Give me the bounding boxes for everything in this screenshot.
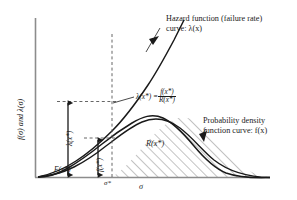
y-axis-label: f(σ) and λ(σ) [16,99,26,140]
hazard-value-fraction: f(x*)R(x*) [158,89,176,105]
cdf-measure-label: F(x*) [54,166,70,175]
x-tick-label-sigma-star: σ* [104,179,111,187]
hazard-function-label: Hazard function (failure rate) curve: λ(… [166,14,262,33]
lambda-measure-label: λ(x*) [66,131,75,146]
reliability-region-label: R(x*) [146,139,164,149]
pdf-curve-label: Probability density function curve: f(x) [203,116,267,135]
hazard-function-label-line1: Hazard function (failure rate) [166,14,262,24]
hazard-function-label-line2: curve: λ(x) [166,24,262,34]
hazard-value-equation: λ(x*) =f(x*)R(x*) [136,89,176,105]
pdf-curve-label-line2: function curve: f(x) [203,126,267,136]
fx-measure-label: f(x*) [96,158,105,172]
hazard-value-lhs: λ(x*) = [136,93,158,102]
hazard-value-denominator: R(x*) [158,97,176,105]
x-axis-label: σ [139,182,143,192]
hazard-value-leader [113,97,134,103]
pdf-curve-label-line1: Probability density [203,116,267,126]
hazard-function-figure: f(σ) and λ(σ) σ σ* Hazard function (fail… [0,0,297,200]
